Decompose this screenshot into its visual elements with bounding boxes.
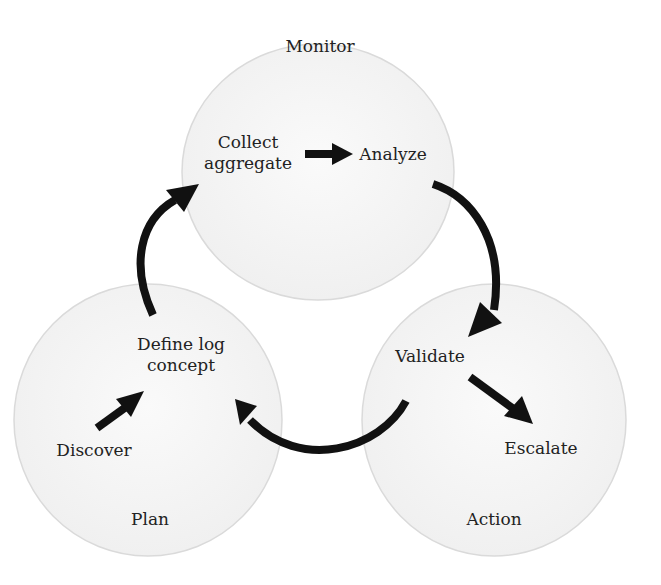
node-analyze: Analyze [359,144,426,165]
diagram-canvas [0,0,661,585]
circle-title-plan: Plan [131,509,169,530]
node-validate: Validate [395,346,465,367]
circle-title-action: Action [466,509,521,530]
node-collect-aggregate: Collect aggregate [204,132,292,174]
cycle-diagram: Monitor Plan Action Collect aggregate An… [0,0,661,585]
circle-title-monitor: Monitor [285,36,354,57]
node-discover: Discover [56,440,131,461]
node-define-log-concept: Define log concept [137,334,225,376]
node-escalate: Escalate [504,438,577,459]
